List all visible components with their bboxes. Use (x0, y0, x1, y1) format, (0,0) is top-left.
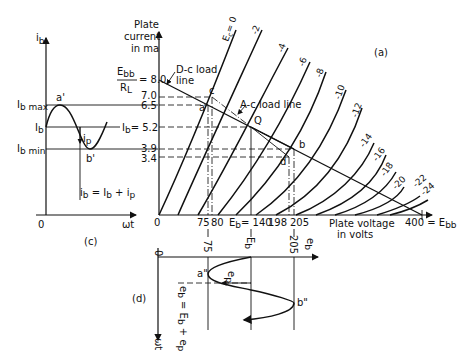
point-b-double-prime: b" (297, 297, 308, 308)
panel-d-label: (d) (132, 293, 146, 304)
svg-text:RL: RL (120, 82, 132, 95)
point-b: b (299, 139, 305, 150)
eb-equation: eb = Eb + ep (176, 286, 189, 352)
curve-label-m16: -16 (370, 145, 387, 163)
x-tick-198: 198 (268, 217, 287, 228)
panel-a-plate-characteristics: Plate current in ma (a) Ebb RL = 8.0 7.0… (117, 15, 457, 240)
x-title-1: Plate voltage (329, 218, 395, 229)
x-tick-400-ebb: 400 = Ebb (405, 217, 457, 230)
y-title-3: in ma (131, 43, 159, 54)
x-tick-205: 205 (290, 217, 309, 228)
svg-text:Ebb: Ebb (117, 66, 135, 79)
curve-label-m18: -18 (378, 160, 395, 178)
curve-label-ec0: Ec= 0 (220, 15, 240, 43)
y-title-1: Plate (134, 19, 159, 30)
x-tick-80: 80 (211, 217, 224, 228)
dc-load-line-pointer (167, 72, 175, 84)
ib-eq-label: Ib= 5.2 (122, 122, 158, 135)
d-tick-75: 75 (202, 240, 213, 253)
ib-min-label: Ib min (17, 143, 46, 156)
x-tick-75: 75 (197, 217, 210, 228)
x-tick-0: 0 (154, 217, 160, 228)
ib-max-label: Ib max (17, 99, 49, 112)
wt-label: ωt (122, 219, 134, 230)
panel-c-label: (c) (84, 236, 97, 247)
load-line-diagram: ib 0 ωt (c) Ib max Ib Ib min a' b' ip ib… (0, 0, 466, 361)
x-tick-eb-140: Eb= 140 (229, 217, 272, 230)
wt-label-d: ωt (153, 338, 164, 350)
eb-axis-label: eb (303, 238, 316, 250)
point-a: a (199, 102, 205, 113)
curve-label-m12: -12 (349, 101, 363, 118)
panel-a-label: (a) (374, 47, 388, 58)
point-b-prime: b' (86, 153, 95, 164)
ib-axis-label: ib (36, 32, 45, 46)
ac-load-line-segment (251, 127, 294, 149)
curve-label-m10: -10 (332, 83, 347, 100)
x-title-2: in volts (337, 229, 373, 240)
d-tick-205: 205 (288, 235, 299, 254)
point-d: d (280, 156, 286, 167)
dc-load-line-label-1: D-c load (176, 64, 217, 75)
y-tick-3-4: 3.4 (141, 153, 157, 164)
point-q: Q (254, 115, 262, 126)
ib-equation: ib = Ib + ip (80, 187, 135, 200)
curve-label-m6: -6 (296, 56, 309, 68)
y-title-2: current (124, 31, 160, 42)
ac-load-line-lower (251, 127, 289, 157)
ep-label: ep (224, 271, 237, 283)
svg-text:= 8.0: = 8.0 (139, 74, 166, 85)
dc-load-line-label-2: line (176, 75, 194, 86)
point-a-double-prime: a" (197, 268, 208, 279)
origin-d: 0 (153, 250, 164, 256)
ac-load-line-label: A-c load line (240, 99, 302, 110)
panel-c-current-waveform: ib 0 ωt (c) Ib max Ib Ib min a' b' ip ib… (17, 32, 158, 247)
origin-label: 0 (38, 219, 44, 230)
d-tick-eb: Eb (243, 237, 256, 249)
point-c: c (209, 85, 215, 96)
ib-label: Ib (35, 122, 44, 135)
curve-ec-0 (159, 30, 236, 215)
point-a-prime: a' (56, 92, 65, 103)
panel-d-voltage-waveform: 0 eb ωt (d) 75 Eb 205 a" b" ep eb = Eb +… (132, 229, 318, 352)
y-tick-6-5: 6.5 (141, 100, 157, 111)
